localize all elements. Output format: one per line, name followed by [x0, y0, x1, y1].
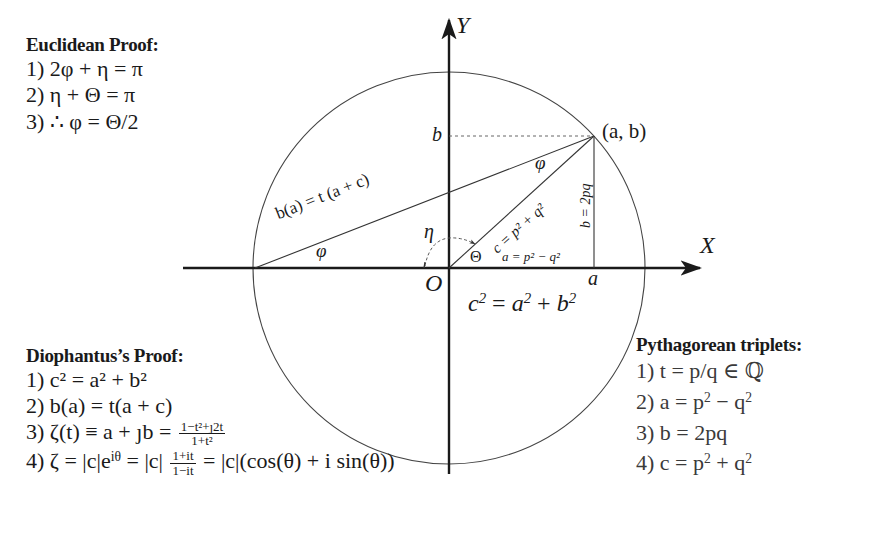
y-axis-label: Y	[456, 12, 469, 39]
tick-label-a: a	[588, 267, 598, 290]
diophantus-step-2: 2) b(a) = t(a + c)	[26, 393, 395, 419]
origin-label: O	[425, 270, 442, 297]
pythagorean-step-3: 3) b = 2pq	[636, 418, 802, 449]
euclidean-proof-panel: Euclidean Proof: 1) 2φ + η = π 2) η + Θ …	[26, 34, 159, 135]
diophantus-proof-panel: Diophantus’s Proof: 1) c² = a² + b² 2) b…	[26, 345, 395, 477]
diophantus-fraction-4: 1+it 1−it	[170, 449, 195, 477]
euclidean-expr-1: 2φ + η = π	[50, 56, 143, 81]
horizontal-leg-label: a = p² − q²	[502, 249, 560, 265]
euclidean-step-1: 1) 2φ + η = π	[26, 56, 159, 82]
diophantus-step-4: 4) ζ = |c|eiθ = |c| 1+it 1−it = |c|(cos(…	[26, 448, 395, 477]
euclidean-step-2: 2) η + Θ = π	[26, 82, 159, 108]
phi-top-label: φ	[535, 152, 546, 174]
pythagorean-step-2: 2) a = p2 − q2	[636, 387, 802, 418]
pythagorean-step-1: 1) t = p/q ∈ ℚ	[636, 356, 802, 387]
diophantus-heading: Diophantus’s Proof:	[26, 345, 395, 367]
euclidean-step-3: 3) ∴ φ = Θ/2	[26, 109, 159, 135]
diophantus-expr-2: b(a) = t(a + c)	[50, 393, 173, 418]
euclidean-heading: Euclidean Proof:	[26, 34, 159, 56]
diophantus-expr-1: c² = a² + b²	[50, 367, 147, 392]
pythagorean-triplets-panel: Pythagorean triplets: 1) t = p/q ∈ ℚ 2) …	[636, 334, 802, 479]
pythagorean-step-4: 4) c = p2 + q2	[636, 448, 802, 479]
euclidean-expr-3: ∴ φ = Θ/2	[50, 109, 139, 134]
main-equation: c2 = a2 + b2	[468, 290, 576, 317]
x-axis-label: X	[700, 232, 715, 259]
tick-label-b: b	[432, 123, 442, 146]
diophantus-fraction-3: 1−t²+ȷ2t 1+t²	[179, 420, 225, 448]
diophantus-expr-3: ζ(t) ≡ a + ȷb =	[50, 419, 171, 444]
diophantus-step-1: 1) c² = a² + b²	[26, 367, 395, 393]
theta-label: Θ	[470, 248, 482, 266]
phi-left-label: φ	[316, 240, 327, 262]
vertical-leg-label: b = 2pq	[578, 184, 594, 228]
pythagorean-heading: Pythagorean triplets:	[636, 334, 802, 356]
diophantus-step-3: 3) ζ(t) ≡ a + ȷb = 1−t²+ȷ2t 1+t²	[26, 420, 395, 448]
point-ab-label: (a, b)	[602, 119, 646, 144]
euclidean-expr-2: η + Θ = π	[50, 82, 135, 107]
eta-label: η	[424, 220, 434, 243]
